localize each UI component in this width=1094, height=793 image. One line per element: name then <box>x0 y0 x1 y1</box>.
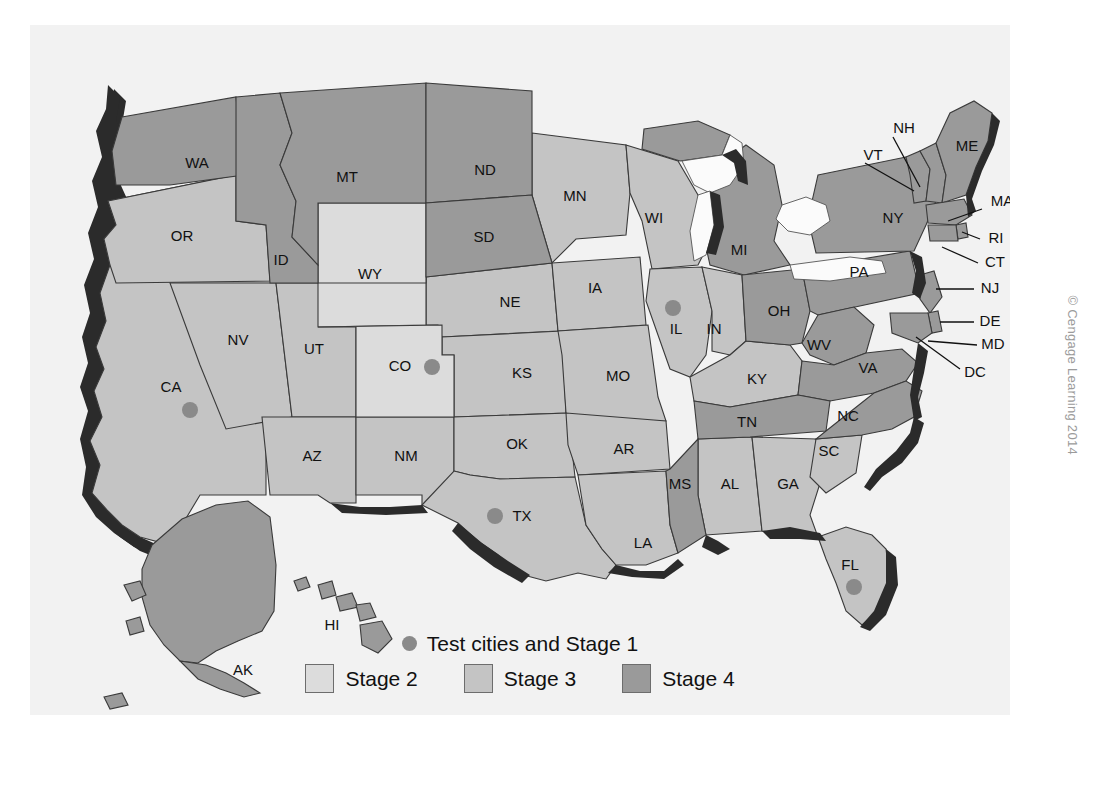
state-label-va: VA <box>859 359 878 376</box>
copyright-notice: © Cengage Learning 2014 <box>1065 295 1080 455</box>
state-label-nd: ND <box>474 161 496 178</box>
legend-label-stage-4: Stage 4 <box>662 668 734 689</box>
state-label-de: DE <box>980 312 1001 329</box>
test-city-dot-il <box>665 300 681 316</box>
state-label-ia: IA <box>588 279 602 296</box>
test-city-dot-icon <box>402 636 417 651</box>
legend-test-cities-row: Test cities and Stage 1 <box>30 633 1010 654</box>
state-label-pa: PA <box>850 263 869 280</box>
state-label-ar: AR <box>614 440 635 457</box>
state-label-mo: MO <box>606 367 630 384</box>
legend-item-stage-2: Stage 2 <box>305 664 417 693</box>
state-label-mn: MN <box>563 187 586 204</box>
state-label-id: ID <box>274 251 289 268</box>
state-label-wv: WV <box>807 336 831 353</box>
state-label-tn: TN <box>737 413 757 430</box>
state-label-ga: GA <box>777 475 799 492</box>
test-city-dot-ca <box>182 402 198 418</box>
map-legend: Test cities and Stage 1 Stage 2 Stage 3 … <box>30 633 1010 693</box>
state-label-dc: DC <box>964 363 986 380</box>
state-label-co: CO <box>389 357 412 374</box>
stage-4-swatch-icon <box>622 664 651 693</box>
state-label-ky: KY <box>747 370 767 387</box>
figure-title-cutoff <box>30 0 1010 14</box>
stage-3-swatch-icon <box>464 664 493 693</box>
state-label-nm: NM <box>394 447 417 464</box>
state-label-hi: HI <box>325 616 340 633</box>
state-label-ms: MS <box>669 475 692 492</box>
state-label-fl: FL <box>841 556 859 573</box>
state-label-il: IL <box>670 320 683 337</box>
state-label-or: OR <box>171 227 194 244</box>
legend-item-stage-4: Stage 4 <box>622 664 734 693</box>
stage-2-swatch-icon <box>305 664 334 693</box>
test-city-dot-fl <box>846 579 862 595</box>
state-label-in: IN <box>707 320 722 337</box>
legend-label-stage-2: Stage 2 <box>345 668 417 689</box>
state-label-sd: SD <box>474 228 495 245</box>
state-label-sc: SC <box>819 442 840 459</box>
state-label-ok: OK <box>506 435 528 452</box>
state-label-me: ME <box>956 137 979 154</box>
state-label-ks: KS <box>512 364 532 381</box>
us-map: WAORCAIDNVUTAZMTWYCONMNDSDNEKSOKTXMNIAMO… <box>30 25 1010 715</box>
state-label-ct: CT <box>985 253 1005 270</box>
state-label-mi: MI <box>731 241 748 258</box>
state-label-nj: NJ <box>981 279 999 296</box>
test-city-dot-co <box>424 359 440 375</box>
legend-label-stage-3: Stage 3 <box>504 668 576 689</box>
legend-item-stage-3: Stage 3 <box>464 664 576 693</box>
state-label-nv: NV <box>228 331 249 348</box>
state-label-ny: NY <box>883 209 904 226</box>
state-label-la: LA <box>634 534 652 551</box>
state-label-tx: TX <box>512 507 531 524</box>
state-label-ne: NE <box>500 293 521 310</box>
legend-test-cities-label: Test cities and Stage 1 <box>427 633 638 654</box>
figure-frame: WAORCAIDNVUTAZMTWYCONMNDSDNEKSOKTXMNIAMO… <box>30 25 1010 715</box>
state-label-al: AL <box>721 475 739 492</box>
state-label-vt: VT <box>863 146 882 163</box>
state-label-ma: MA <box>991 192 1010 209</box>
state-label-md: MD <box>981 335 1004 352</box>
state-label-az: AZ <box>302 447 321 464</box>
state-label-wi: WI <box>645 209 663 226</box>
state-label-nh: NH <box>893 119 915 136</box>
state-label-nc: NC <box>837 407 859 424</box>
state-label-wa: WA <box>185 154 209 171</box>
state-label-ri: RI <box>989 229 1004 246</box>
state-label-mt: MT <box>336 168 358 185</box>
test-city-dot-tx <box>487 508 503 524</box>
state-label-ut: UT <box>304 340 324 357</box>
state-label-wy: WY <box>358 265 382 282</box>
state-label-ca: CA <box>161 378 182 395</box>
state-label-oh: OH <box>768 302 791 319</box>
legend-stages-row: Stage 2 Stage 3 Stage 4 <box>30 664 1010 693</box>
